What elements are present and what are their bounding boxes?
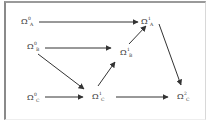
node-sup: 2 xyxy=(184,91,187,96)
node-sup: 1 xyxy=(99,91,102,96)
node-base: Ω xyxy=(120,48,127,57)
node-omega-0-C: Ω 0 C xyxy=(27,92,40,103)
edge-B1-A1 xyxy=(129,26,146,44)
node-omega-1-C: Ω 1 C xyxy=(92,91,105,102)
node-sup: 0 xyxy=(34,92,37,97)
node-base: Ω xyxy=(177,92,184,101)
node-omega-0-A: Ω 0 A xyxy=(21,16,34,27)
node-base: Ω xyxy=(141,17,148,26)
edge-B0-C1 xyxy=(38,54,84,89)
node-sub: B xyxy=(36,47,40,52)
edge-A1-C2 xyxy=(159,24,181,85)
node-sup: 0 xyxy=(28,16,31,21)
node-sub: C xyxy=(101,97,105,102)
edge-C1-B1 xyxy=(98,62,115,86)
node-sub: A xyxy=(29,22,34,27)
node-base: Ω xyxy=(21,17,28,26)
node-omega-1-B: Ω 1 B xyxy=(120,47,133,58)
node-sup: 1 xyxy=(127,47,130,52)
node-sub: C xyxy=(186,97,190,102)
node-base: Ω xyxy=(92,92,99,101)
node-sub: B xyxy=(129,53,133,58)
node-sub: C xyxy=(36,98,40,103)
node-sup: 1 xyxy=(148,16,151,21)
node-omega-2-C: Ω 2 C xyxy=(177,91,190,102)
node-omega-0-B: Ω 0 B xyxy=(27,41,40,52)
node-omega-1-A: Ω 1 A xyxy=(141,16,154,27)
diagram-canvas: Ω 0 A Ω 0 B Ω 0 C Ω 1 A Ω 1 B Ω 1 C Ω 2 … xyxy=(0,0,211,122)
node-sup: 0 xyxy=(34,41,37,46)
node-base: Ω xyxy=(27,93,34,102)
node-base: Ω xyxy=(27,42,34,51)
node-sub: A xyxy=(149,22,154,27)
edges xyxy=(38,22,181,97)
